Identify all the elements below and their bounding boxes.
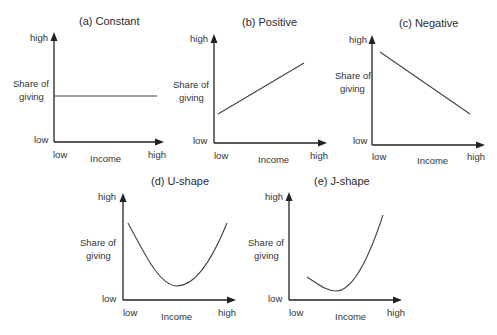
x-high-label: high bbox=[310, 150, 328, 161]
y-low-label: low bbox=[268, 293, 282, 304]
panel-title: (a) Constant bbox=[79, 15, 140, 27]
panel-title: (b) Positive bbox=[242, 16, 297, 28]
y-high-label: high bbox=[30, 32, 48, 43]
x-high-label: high bbox=[387, 307, 405, 318]
y-high-label: high bbox=[190, 33, 208, 44]
y-low-label: low bbox=[34, 134, 48, 145]
y-axis-arrow-icon bbox=[286, 192, 293, 201]
x-low-label: low bbox=[289, 307, 303, 318]
y-axis-arrow-icon bbox=[51, 32, 58, 41]
y-high-label: high bbox=[349, 34, 367, 45]
panel-d-u-shape: (d) U-shape high low Share of giving low… bbox=[80, 175, 236, 322]
y-axis-arrow-icon bbox=[120, 193, 127, 202]
panel-title: (c) Negative bbox=[399, 17, 458, 29]
y-axis-title-line1: Share of bbox=[335, 70, 371, 81]
y-low-label: low bbox=[353, 135, 367, 146]
panel-c-negative: (c) Negative high low Share of giving lo… bbox=[335, 17, 485, 166]
y-axis-title-line2: giving bbox=[179, 92, 204, 103]
y-axis-arrow-icon bbox=[211, 34, 218, 43]
x-axis-arrow-icon bbox=[318, 140, 327, 147]
negative-line bbox=[380, 52, 470, 114]
y-axis-title-line2: giving bbox=[19, 91, 44, 102]
x-axis-title: Income bbox=[417, 155, 448, 166]
x-axis-arrow-icon bbox=[476, 142, 485, 149]
panel-e-j-shape: (e) J-shape high low Share of giving low… bbox=[248, 175, 405, 322]
x-low-label: low bbox=[53, 149, 67, 160]
y-low-label: low bbox=[102, 293, 116, 304]
y-axis-title-line2: giving bbox=[86, 250, 111, 261]
x-axis-arrow-icon bbox=[227, 297, 236, 304]
x-axis-title: Income bbox=[90, 153, 121, 164]
y-axis-title-line2: giving bbox=[254, 250, 279, 261]
panel-title: (e) J-shape bbox=[314, 175, 370, 187]
y-axis-title-line2: giving bbox=[340, 83, 365, 94]
y-axis-title-line1: Share of bbox=[80, 237, 116, 248]
x-high-label: high bbox=[148, 149, 166, 160]
y-high-label: high bbox=[265, 191, 283, 202]
x-axis-title: Income bbox=[161, 311, 192, 322]
x-high-label: high bbox=[467, 151, 485, 162]
y-high-label: high bbox=[98, 191, 116, 202]
y-axis-title-line1: Share of bbox=[248, 237, 284, 248]
x-axis-title: Income bbox=[258, 154, 289, 165]
x-low-label: low bbox=[214, 150, 228, 161]
panel-b-positive: (b) Positive high low Share of giving lo… bbox=[173, 16, 328, 165]
x-axis-arrow-icon bbox=[155, 139, 164, 146]
positive-line bbox=[218, 63, 304, 114]
panel-title: (d) U-shape bbox=[151, 175, 209, 187]
u-shape-curve bbox=[128, 223, 227, 286]
x-low-label: low bbox=[123, 307, 137, 318]
x-axis-arrow-icon bbox=[393, 297, 402, 304]
x-axis-title: Income bbox=[335, 311, 366, 322]
y-axis-arrow-icon bbox=[369, 35, 376, 44]
x-low-label: low bbox=[372, 151, 386, 162]
x-high-label: high bbox=[218, 307, 236, 318]
y-axis-title-line1: Share of bbox=[13, 78, 49, 89]
j-shape-curve bbox=[307, 215, 383, 291]
income-giving-diagram: (a) Constant high low Share of giving lo… bbox=[0, 0, 497, 335]
y-axis-title-line1: Share of bbox=[173, 79, 209, 90]
panel-a-constant: (a) Constant high low Share of giving lo… bbox=[13, 15, 166, 164]
y-low-label: low bbox=[193, 135, 207, 146]
